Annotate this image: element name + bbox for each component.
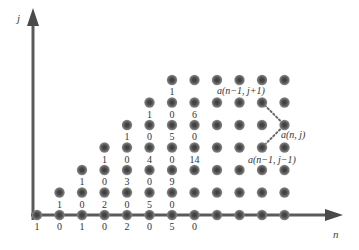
lattice-value: 1 xyxy=(170,86,175,97)
lattice-dot xyxy=(234,210,244,220)
lattice-dot xyxy=(167,142,177,152)
lattice-value: 2 xyxy=(102,199,107,210)
lattice-dot xyxy=(77,187,87,197)
lattice-dot xyxy=(234,187,244,197)
lattice-value: 0 xyxy=(192,131,197,142)
lattice-value: 1 xyxy=(80,221,85,232)
lattice-dot xyxy=(167,75,177,85)
lattice-dot xyxy=(257,210,267,220)
lattice-dot xyxy=(257,165,267,175)
lattice-value: 4 xyxy=(147,154,152,165)
lattice-dot xyxy=(189,165,199,175)
lattice-dot xyxy=(99,165,109,175)
lattice-dot xyxy=(99,210,109,220)
lattice-dot xyxy=(279,75,289,85)
lattice-value: 5 xyxy=(170,131,175,142)
lattice-dot xyxy=(234,120,244,130)
lattice-dot xyxy=(257,97,267,107)
lattice-dot xyxy=(279,97,289,107)
lattice-dot xyxy=(144,165,154,175)
lattice-dot xyxy=(189,210,199,220)
lattice-value: 0 xyxy=(147,221,152,232)
lattice-value: 0 xyxy=(125,199,130,210)
annotation-lower: a(n−1, j−1) xyxy=(248,154,297,166)
lattice-dot xyxy=(234,75,244,85)
lattice-dot xyxy=(189,120,199,130)
lattice-dot xyxy=(144,210,154,220)
y-axis-label: j xyxy=(15,12,20,24)
lattice-dot xyxy=(144,120,154,130)
lattice-value: 6 xyxy=(192,109,197,120)
lattice-dot xyxy=(279,142,289,152)
lattice-dot xyxy=(167,165,177,175)
lattice-dot xyxy=(77,165,87,175)
lattice-dot xyxy=(99,142,109,152)
lattice-dot xyxy=(54,187,64,197)
y-axis-arrow-icon xyxy=(27,8,39,26)
lattice-dot xyxy=(122,210,132,220)
lattice-value: 9 xyxy=(170,176,175,187)
lattice-dot xyxy=(122,120,132,130)
lattice-dot xyxy=(212,210,222,220)
lattice-dot xyxy=(167,120,177,130)
lattice-value: 1 xyxy=(80,176,85,187)
lattice-value: 0 xyxy=(102,221,107,232)
lattice-value: 0 xyxy=(80,199,85,210)
lattice-dot xyxy=(257,142,267,152)
lattice-value: 0 xyxy=(147,176,152,187)
lattice-value: 1 xyxy=(57,199,62,210)
lattice-value: 0 xyxy=(125,154,130,165)
lattice-dot xyxy=(77,210,87,220)
lattice-dot xyxy=(122,187,132,197)
lattice-dot xyxy=(234,97,244,107)
x-axis-arrow-icon xyxy=(325,209,343,221)
lattice-value: 0 xyxy=(170,109,175,120)
lattice-value: 5 xyxy=(147,199,152,210)
lattice-value: 1 xyxy=(147,109,152,120)
lattice-value: 2 xyxy=(125,221,130,232)
lattice-dot xyxy=(212,97,222,107)
lattice-value: 0 xyxy=(170,154,175,165)
lattice-dot xyxy=(279,187,289,197)
lattice-dot xyxy=(234,165,244,175)
lattice-dot xyxy=(122,165,132,175)
lattice-dot xyxy=(32,210,42,220)
lattice-dot xyxy=(144,97,154,107)
lattice-dot xyxy=(234,142,244,152)
lattice-value: 0 xyxy=(57,221,62,232)
lattice-dot xyxy=(257,187,267,197)
lattice-dot xyxy=(122,142,132,152)
lattice-dot xyxy=(189,187,199,197)
lattice-value: 5 xyxy=(170,221,175,232)
lattice-dot xyxy=(279,210,289,220)
lattice-dot xyxy=(144,142,154,152)
annotation-upper: a(n−1, j+1) xyxy=(217,85,266,97)
lattice-dot xyxy=(212,120,222,130)
axes: j n xyxy=(15,8,343,240)
lattice-value: 1 xyxy=(35,221,40,232)
lattice-value: 3 xyxy=(125,176,130,187)
lattice-dot xyxy=(257,75,267,85)
lattice-dot xyxy=(99,187,109,197)
lattice-value: 14 xyxy=(190,154,200,165)
lattice-value: 0 xyxy=(102,176,107,187)
x-axis-label: n xyxy=(333,228,339,240)
lattice-dot xyxy=(54,210,64,220)
lattice-dot xyxy=(167,187,177,197)
lattice-dot xyxy=(212,187,222,197)
lattice-dots xyxy=(32,75,290,220)
lattice-value: 1 xyxy=(102,154,107,165)
lattice-dot xyxy=(189,97,199,107)
lattice-dot xyxy=(212,165,222,175)
lattice-value: 1 xyxy=(125,131,130,142)
lattice-dot xyxy=(212,75,222,85)
lattice-dot xyxy=(257,120,267,130)
lattice-value: 0 xyxy=(147,131,152,142)
lattice-dot xyxy=(167,210,177,220)
lattice-value: 0 xyxy=(170,199,175,210)
lattice-dot xyxy=(144,187,154,197)
annotation-target: a(n, j) xyxy=(281,129,306,141)
lattice-dot xyxy=(189,75,199,85)
lattice-dot xyxy=(167,97,177,107)
lattice-dot xyxy=(189,142,199,152)
